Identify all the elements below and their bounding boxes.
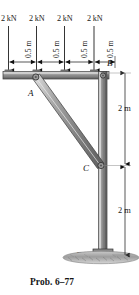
fixed-base-support [63,249,139,264]
diagonal-brace-member [33,74,105,169]
horizontal-beam-member [3,72,109,80]
figure-caption: Prob. 6–77 [30,277,74,287]
spacing-dimension-lines [10,56,116,68]
frame-structure-drawing [0,0,139,295]
dimension-extension-lines [104,73,131,255]
statics-problem-figure: 2 kN 2 kN 2 kN 2 kN 0.5 m 0.5 m 0.5 m 0.… [0,0,139,295]
applied-load-arrows [9,26,95,71]
